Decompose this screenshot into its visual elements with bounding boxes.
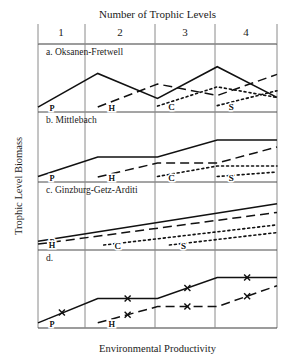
- curve-label-b-P: P: [49, 173, 54, 183]
- curve-label-a-C: C: [168, 102, 174, 112]
- curve-b-P: [38, 140, 277, 177]
- curve-a-P: [38, 67, 277, 107]
- curve-label-a-S: S: [229, 102, 234, 112]
- panel-c: c. Ginzburg-Getz-ArditiPPHHCCSS: [38, 185, 277, 251]
- y-axis-label: Trophic Level Biomass: [13, 137, 24, 235]
- curve-label-b-H: H: [109, 173, 116, 183]
- curve-label-c-H: H: [49, 240, 56, 250]
- curve-label-b-S: S: [229, 173, 234, 183]
- panel-label-d: d.: [46, 253, 53, 263]
- curve-label-d-H: H: [109, 319, 116, 329]
- curve-label-d-P: P: [49, 319, 54, 329]
- figure-canvas: Number of Trophic Levels1234Environmenta…: [0, 0, 296, 360]
- curve-d-P: [38, 278, 277, 323]
- top-title: Number of Trophic Levels: [99, 8, 216, 20]
- curve-label-a-P: P: [49, 103, 54, 113]
- panel-label-a: a. Oksanen-Fretwell: [46, 47, 123, 57]
- curve-b-C: [158, 166, 278, 177]
- panel-a: a. Oksanen-FretwellPPHHCCSS: [38, 47, 277, 113]
- curve-b-H: [98, 147, 277, 177]
- curve-label-c-C: C: [115, 241, 121, 251]
- curve-b-S: [217, 172, 277, 177]
- panel-label-b: b. Mittlebach: [46, 115, 97, 125]
- x-axis-label: Environmental Productivity: [99, 343, 217, 354]
- x-tick-label-4: 4: [243, 26, 249, 38]
- panel-d: d.PPHH: [38, 253, 277, 329]
- curve-a-C: [158, 87, 278, 106]
- x-tick-label-3: 3: [182, 26, 188, 38]
- curve-label-c-S: S: [181, 241, 186, 251]
- curve-a-H: [98, 74, 277, 107]
- curve-c-H: [38, 212, 277, 244]
- panel-b: b. MittlebachPPHHCCSS: [38, 115, 277, 183]
- panel-label-c: c. Ginzburg-Getz-Arditi: [46, 185, 138, 195]
- trophic-levels-figure: Number of Trophic Levels1234Environmenta…: [0, 0, 296, 360]
- curve-label-b-C: C: [168, 173, 174, 183]
- curve-label-a-H: H: [109, 103, 116, 113]
- x-tick-label-1: 1: [58, 26, 64, 38]
- x-tick-label-2: 2: [117, 26, 123, 38]
- curve-c-P: [38, 204, 277, 241]
